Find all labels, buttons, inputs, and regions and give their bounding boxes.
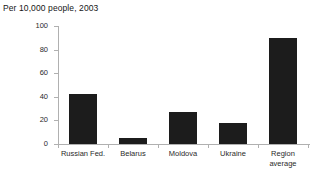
y-axis-tick-label: 100 <box>35 21 48 30</box>
y-axis-tick-label: 20 <box>40 115 48 124</box>
x-axis-tick <box>108 144 109 148</box>
y-axis-tick: 40 <box>54 97 58 98</box>
x-axis-label: Russian Fed. <box>58 149 108 159</box>
y-axis-tick: 80 <box>54 50 58 51</box>
x-axis-line <box>58 144 310 145</box>
y-axis-tick-label: 40 <box>40 92 48 101</box>
bar-chart-figure: Per 10,000 people, 2003 020406080100 Rus… <box>0 0 317 179</box>
x-axis-tick <box>308 144 309 148</box>
y-axis-tick-label: 60 <box>40 68 48 77</box>
x-axis-tick <box>158 144 159 148</box>
x-axis-label: Belarus <box>108 149 158 159</box>
x-axis-tick <box>58 144 59 148</box>
y-axis-tick: 60 <box>54 73 58 74</box>
plot-area: 020406080100 <box>58 26 308 144</box>
bar <box>119 138 147 144</box>
bar <box>169 112 197 144</box>
x-axis-label: Moldova <box>158 149 208 159</box>
x-axis-tick <box>208 144 209 148</box>
x-axis-tick <box>258 144 259 148</box>
y-axis-tick: 100 <box>54 26 58 27</box>
x-axis-label: Ukraine <box>208 149 258 159</box>
chart-title: Per 10,000 people, 2003 <box>3 3 98 14</box>
y-axis-tick-label: 0 <box>44 139 48 148</box>
bar <box>219 123 247 144</box>
bar <box>69 94 97 144</box>
x-axis-label: Region average <box>258 149 308 168</box>
bar <box>269 38 297 144</box>
y-axis-tick-label: 80 <box>40 45 48 54</box>
y-axis-tick: 20 <box>54 120 58 121</box>
